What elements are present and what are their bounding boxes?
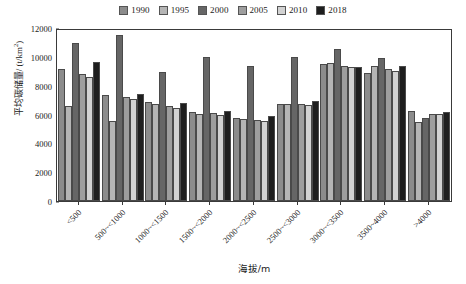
x-tick-mark [165, 202, 166, 205]
bar-1995-3000~<3500[interactable] [327, 63, 334, 201]
x-tick-label: 3000~<3500 [308, 208, 345, 245]
legend-item-label: 1990 [131, 6, 149, 15]
bar-1995-1000~<1500[interactable] [152, 104, 159, 201]
bar-2000-1500~<2000[interactable] [203, 57, 210, 201]
y-tick-label: 4000 [35, 140, 52, 149]
bar-group [320, 30, 362, 201]
bar-2018-3500~4000[interactable] [399, 66, 406, 201]
bar-2018->4000[interactable] [443, 112, 450, 201]
bar-1995-3500~4000[interactable] [371, 66, 378, 201]
bar-1990-1000~<1500[interactable] [145, 102, 152, 201]
legend-item-label: 2018 [328, 6, 346, 15]
legend-item-label: 2000 [210, 6, 228, 15]
plot-area [57, 30, 451, 201]
x-tick-label: 1000~<1500 [133, 208, 170, 245]
bar-2010-1000~<1500[interactable] [173, 108, 180, 201]
x-tick-label: 2500~<3000 [265, 208, 302, 245]
x-tick-mark [78, 202, 79, 205]
bar-2000-1000~<1500[interactable] [159, 72, 166, 201]
bar-1995-<500[interactable] [65, 106, 72, 201]
bar-2018-<500[interactable] [93, 62, 100, 201]
bar-1990-3500~4000[interactable] [364, 73, 371, 201]
bar-2010-3000~<3500[interactable] [348, 67, 355, 201]
y-tick-label: 12000 [31, 25, 52, 34]
bar-1990->4000[interactable] [408, 111, 415, 201]
bar-group [408, 30, 450, 201]
y-tick-label: 6000 [35, 111, 52, 120]
bar-1995-1500~<2000[interactable] [196, 114, 203, 201]
bar-1995->4000[interactable] [415, 122, 422, 201]
legend-item-2005[interactable]: 2005 [238, 6, 268, 15]
bar-2010->4000[interactable] [436, 114, 443, 201]
bar-2000-2000~<2500[interactable] [247, 66, 254, 201]
bar-group [145, 30, 187, 201]
x-tick-label: 3500~4000 [356, 208, 390, 242]
x-tick-mark [428, 202, 429, 205]
x-tick-label: 1500~<2000 [177, 208, 214, 245]
bar-2005-1000~<1500[interactable] [166, 106, 173, 201]
legend-item-1995[interactable]: 1995 [159, 6, 189, 15]
bar-2010-3500~4000[interactable] [392, 71, 399, 201]
y-tick-label: 0 [48, 198, 52, 207]
bar-2005-3000~<3500[interactable] [341, 66, 348, 201]
bar-group [58, 30, 100, 201]
bar-2018-3000~<3500[interactable] [355, 67, 362, 201]
bar-2005-2000~<2500[interactable] [254, 120, 261, 201]
bar-chart-figure: 199019952000200520102018 020004000600080… [0, 0, 466, 284]
x-tick-mark [209, 202, 210, 205]
bar-2000-3500~4000[interactable] [378, 58, 385, 201]
x-axis-title: 海拔/m [56, 261, 452, 275]
bar-group [364, 30, 406, 201]
legend-swatch-icon [238, 6, 247, 15]
bar-2000-500~<1000[interactable] [116, 35, 123, 201]
bar-1990-1500~<2000[interactable] [189, 112, 196, 201]
bar-1990-2500~<3000[interactable] [277, 104, 284, 201]
bar-2000-2500~<3000[interactable] [291, 57, 298, 201]
bar-2018-2500~<3000[interactable] [312, 101, 319, 201]
bar-2010-2000~<2500[interactable] [261, 121, 268, 201]
bar-2018-1500~<2000[interactable] [224, 111, 231, 201]
bar-2000->4000[interactable] [422, 118, 429, 201]
bar-1990-2000~<2500[interactable] [233, 118, 240, 201]
legend-item-2010[interactable]: 2010 [277, 6, 307, 15]
legend-swatch-icon [198, 6, 207, 15]
bar-2005-3500~4000[interactable] [385, 69, 392, 201]
x-tick-mark [340, 202, 341, 205]
bar-2005-500~<1000[interactable] [123, 97, 130, 201]
bar-group [233, 30, 275, 201]
bar-2018-1000~<1500[interactable] [180, 103, 187, 201]
x-tick-mark [384, 202, 385, 205]
bar-2005-1500~<2000[interactable] [210, 113, 217, 201]
bar-group [102, 30, 144, 201]
bar-1995-500~<1000[interactable] [109, 121, 116, 201]
bar-1990-<500[interactable] [58, 69, 65, 201]
x-tick-mark [122, 202, 123, 205]
y-tick-label: 8000 [35, 82, 52, 91]
x-tick-mark [297, 202, 298, 205]
y-tick-label: 2000 [35, 169, 52, 178]
y-tick-label: 10000 [31, 54, 52, 63]
bar-2018-2000~<2500[interactable] [268, 116, 275, 201]
bar-2005->4000[interactable] [429, 114, 436, 201]
bar-2000-3000~<3500[interactable] [334, 49, 341, 201]
legend-item-2018[interactable]: 2018 [316, 6, 346, 15]
bar-2018-500~<1000[interactable] [137, 94, 144, 201]
legend-item-1990[interactable]: 1990 [119, 6, 149, 15]
bar-2010-500~<1000[interactable] [130, 99, 137, 201]
bar-1995-2000~<2500[interactable] [240, 119, 247, 201]
x-tick-label: 500~<1000 [93, 208, 127, 242]
bar-2000-<500[interactable] [72, 43, 79, 201]
bar-1995-2500~<3000[interactable] [284, 104, 291, 201]
bar-2010-<500[interactable] [86, 77, 93, 201]
plot-frame [56, 29, 452, 202]
bar-1990-3000~<3500[interactable] [320, 64, 327, 201]
bar-2010-1500~<2000[interactable] [217, 115, 224, 201]
bar-1990-500~<1000[interactable] [102, 95, 109, 201]
chart-legend: 199019952000200520102018 [0, 6, 466, 15]
bar-group [189, 30, 231, 201]
bar-2005-<500[interactable] [79, 74, 86, 201]
bar-2010-2500~<3000[interactable] [305, 105, 312, 201]
bar-2005-2500~<3000[interactable] [298, 104, 305, 201]
legend-swatch-icon [159, 6, 168, 15]
legend-item-2000[interactable]: 2000 [198, 6, 228, 15]
